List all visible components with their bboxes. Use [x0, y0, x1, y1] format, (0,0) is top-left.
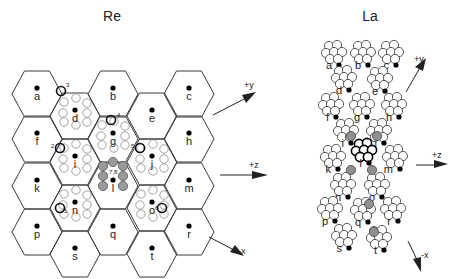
la-atom: [361, 106, 370, 115]
cell-label-a: a: [34, 90, 41, 102]
cell-label-c: c: [186, 90, 192, 102]
la-dot-l: [366, 160, 371, 165]
la-dot-i: [348, 140, 353, 145]
cell-label-e: e: [149, 112, 155, 124]
cell-label-n: n: [72, 204, 78, 216]
neighbor-circle: [83, 118, 91, 126]
shaded-circle: [98, 161, 107, 170]
neighbor-circle: [83, 99, 91, 107]
cell-label-j: j: [150, 158, 153, 170]
la-dot-c: [393, 62, 398, 67]
la-label-i: i: [342, 137, 344, 149]
neighbor-circle: [83, 210, 91, 218]
neighbor-circle: [137, 210, 145, 218]
cell-label-q: q: [110, 228, 116, 240]
neighbor-circle: [98, 141, 106, 149]
la-dot-p: [332, 218, 337, 223]
cell-label-r: r: [187, 228, 191, 240]
highlight-circle-d: [57, 87, 66, 96]
la-dot-e: [382, 88, 387, 93]
marker-d: 3: [66, 82, 70, 88]
cell-label-p: p: [34, 228, 40, 240]
lattice-figure: Re La 34257,816 afkpdinsbglqejotchmr +y …: [0, 0, 454, 279]
la-axis-x-label: -x: [421, 250, 429, 260]
la-axis-z: +z: [416, 150, 448, 168]
shaded-circle: [98, 171, 107, 180]
re-title: Re: [103, 8, 121, 24]
re-axis-y-label: +y: [244, 80, 254, 90]
re-axis-x: -x: [209, 237, 246, 256]
highlight-circle-o: [158, 204, 167, 213]
neighbor-circle: [59, 155, 67, 163]
neighbor-circle: [137, 164, 145, 172]
la-atom: [379, 80, 388, 89]
neighbor-circle: [121, 141, 129, 149]
la-atom: [330, 106, 339, 115]
la-dot-b: [365, 62, 370, 67]
la-label-t: t: [374, 244, 377, 256]
la-label-a: a: [326, 59, 333, 71]
cell-label-f: f: [35, 135, 39, 147]
la-dot-o: [379, 194, 384, 199]
neighbor-circle: [72, 94, 80, 102]
la-label-h: h: [386, 111, 392, 123]
cell-label-t: t: [150, 250, 153, 262]
la-atom: [376, 186, 385, 195]
la-atom: [343, 79, 352, 88]
la-atom: [393, 106, 402, 115]
neighbor-circle: [121, 132, 129, 140]
neighbor-circle: [98, 121, 106, 129]
neighbor-circle: [60, 118, 68, 126]
neighbor-circle: [160, 210, 168, 218]
shaded-circle: [118, 171, 127, 180]
neighbor-circle: [83, 201, 91, 209]
cell-label-d: d: [72, 112, 78, 124]
la-atom: [390, 54, 399, 63]
neighbor-circle: [72, 140, 80, 148]
la-axis-x: -x: [408, 241, 429, 272]
shaded-circle: [108, 157, 117, 166]
cell-label-h: h: [186, 135, 192, 147]
la-atom: [392, 210, 401, 219]
la-atom: [343, 237, 352, 246]
re-axis-x-label: -x: [238, 246, 246, 256]
la-label-s: s: [337, 242, 343, 254]
la-shaded-atom-j: [372, 131, 381, 140]
neighbor-circle: [83, 145, 91, 153]
la-atom-clusters: abcdefghijklmnopqrst: [317, 40, 407, 256]
cell-label-l: l: [112, 182, 114, 194]
neighbor-circle: [149, 186, 157, 194]
la-axis-y: +y: [406, 54, 426, 92]
neighbor-circle: [137, 190, 145, 198]
cell-label-o: o: [149, 204, 155, 216]
la-shaded-atom-i: [346, 131, 355, 140]
la-dot-n: [345, 194, 350, 199]
la-shaded-atom-o: [367, 165, 376, 174]
re-axis-z: +z: [220, 160, 268, 179]
la-shaded-atom-q: [364, 199, 373, 208]
la-dot-k: [335, 166, 340, 171]
la-axis-z-label: +z: [432, 150, 442, 160]
neighbor-circle: [136, 155, 144, 163]
la-dot-m: [397, 166, 402, 171]
la-label-e: e: [372, 85, 378, 97]
neighbor-circle: [60, 98, 68, 106]
cell-label-b: b: [110, 90, 116, 102]
neighbor-circle: [83, 164, 91, 172]
cell-label-i: i: [74, 158, 76, 170]
neighbor-circle: [160, 145, 168, 153]
neighbor-circle: [160, 191, 168, 199]
la-atom: [362, 211, 371, 220]
la-dot-d: [346, 87, 351, 92]
cell-label-k: k: [34, 182, 40, 194]
la-atom: [363, 152, 372, 161]
la-atom: [378, 239, 387, 248]
la-dot-q: [365, 219, 370, 224]
la-dot-h: [396, 114, 401, 119]
la-dot-t: [381, 247, 386, 252]
la-dot-g: [364, 114, 369, 119]
la-label-m: m: [384, 163, 393, 175]
la-dot-r: [395, 218, 400, 223]
la-label-q: q: [355, 216, 361, 228]
re-axis-y: +y: [213, 80, 256, 115]
